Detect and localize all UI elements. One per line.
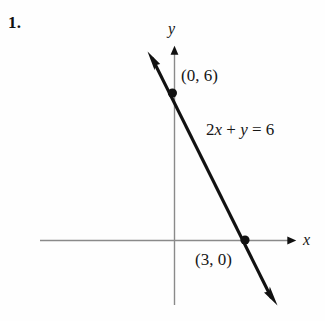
equation-equals: = — [248, 120, 266, 139]
coordinate-plot — [0, 0, 325, 321]
y-axis-label: y — [168, 21, 175, 37]
point-marker-0-6 — [168, 88, 177, 97]
x-axis-label: x — [303, 232, 310, 248]
equation-variable-y: y — [240, 120, 248, 139]
line-equation-label: 2x + y = 6 — [206, 121, 274, 138]
equation-plus: + — [222, 120, 240, 139]
equation-coefficient: 2 — [206, 120, 215, 139]
point-marker-3-0 — [240, 235, 249, 244]
x-intercept-label: (3, 0) — [195, 251, 232, 268]
figure-root: 1. y x ( — [0, 0, 325, 321]
equation-constant: 6 — [266, 120, 275, 139]
y-intercept-label: (0, 6) — [181, 67, 218, 84]
equation-variable-x: x — [215, 120, 223, 139]
